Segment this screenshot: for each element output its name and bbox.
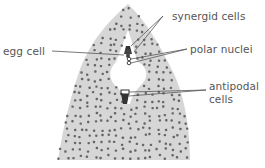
- embryo-sac-diagram: synergid cells egg cell polar nuclei ant…: [0, 0, 265, 168]
- label-antipodal-cells: cells: [209, 93, 233, 105]
- label-polar-nuclei: polar nuclei: [190, 43, 253, 55]
- label-antipodal: antipodal: [209, 80, 259, 92]
- label-synergid-cells: synergid cells: [172, 10, 245, 22]
- label-egg-cell: egg cell: [3, 45, 45, 57]
